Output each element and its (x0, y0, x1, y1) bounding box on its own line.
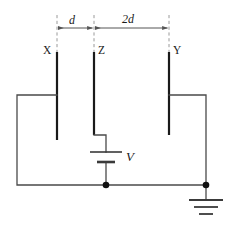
dimension-label-d: d (69, 14, 75, 26)
circuit-diagram-figure: X Z Y d 2d V (0, 0, 233, 233)
dimension-label-2d: 2d (122, 13, 134, 25)
circuit-wires (17, 95, 206, 200)
circuit-diagram-canvas (0, 0, 233, 233)
plate-label-y: Y (173, 45, 181, 57)
wire-x-to-left-rail (17, 95, 106, 185)
wire-y-to-right-rail (169, 95, 206, 185)
junction-dot-battery (103, 182, 110, 189)
wire-z-to-battery (94, 135, 106, 152)
capacitor-plates (57, 52, 169, 140)
battery-symbol (90, 152, 122, 162)
plate-label-x: X (43, 45, 51, 57)
junction-dot-ground (203, 182, 210, 189)
plate-label-z: Z (98, 45, 105, 57)
ground-symbol (189, 200, 223, 214)
battery-label-v: V (126, 150, 134, 163)
